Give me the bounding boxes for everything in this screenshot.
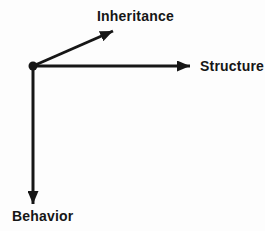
inheritance-arrow (33, 31, 113, 66)
diagram-canvas: Inheritance Structure Behavior (0, 0, 265, 231)
axes-diagram: Inheritance Structure Behavior (0, 0, 265, 231)
behavior-label: Behavior (12, 208, 74, 224)
structure-label: Structure (200, 58, 264, 74)
inheritance-label: Inheritance (97, 8, 174, 24)
origin-dot (29, 62, 38, 71)
